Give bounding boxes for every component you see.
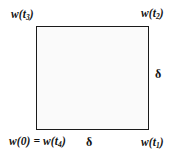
side-label-right-delta: δ — [155, 68, 161, 80]
corner-label-top-right-close: ) — [160, 7, 164, 19]
side-label-bottom-delta: δ — [86, 136, 92, 148]
corner-label-bottom-right: w(t1) — [141, 137, 164, 149]
corner-label-bottom-left: w(0) = w(t4) — [9, 136, 66, 148]
corner-label-bottom-right-subscript: 1 — [156, 141, 160, 150]
corner-label-top-right: w(t2) — [141, 8, 164, 20]
corner-label-top-left: w(t3) — [11, 9, 34, 21]
corner-label-bottom-right-close: ) — [160, 136, 164, 148]
corner-label-top-right-subscript: 2 — [156, 12, 160, 21]
corner-label-bottom-right-base: w(t — [141, 136, 156, 148]
square-path — [36, 26, 149, 130]
corner-label-bottom-left-subscript: 4 — [58, 140, 62, 149]
corner-label-top-right-base: w(t — [141, 7, 156, 19]
corner-label-bottom-left-prefix: w(0) = w(t — [9, 135, 58, 147]
corner-label-bottom-left-close: ) — [62, 135, 66, 147]
square-diagram: w(t3) w(t2) w(0) = w(t4) w(t1) δ δ — [0, 0, 183, 158]
corner-label-top-left-subscript: 3 — [26, 13, 30, 22]
corner-label-top-left-close: ) — [30, 8, 34, 20]
corner-label-top-left-base: w(t — [11, 8, 26, 20]
